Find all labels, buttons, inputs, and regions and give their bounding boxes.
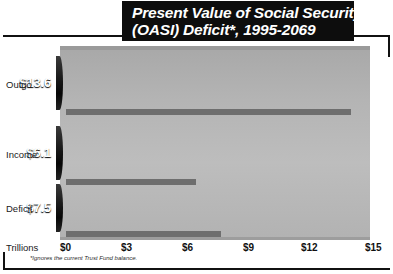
category-label-income: Income (6, 149, 37, 160)
chart-title-line-2: (OASI) Deficit*, 1995-2069 (132, 21, 346, 38)
xtick-0: $0 (60, 242, 71, 253)
title-bracket-tick (388, 35, 390, 57)
xtick-12: $12 (301, 242, 318, 253)
figure-bottom-rule (3, 268, 390, 270)
bar-shadow-deficit (66, 231, 221, 237)
category-label-outgo: Outgo (6, 79, 32, 90)
bar-shadow-outgo (66, 109, 351, 115)
bar-income-cap (56, 126, 63, 180)
chart-title-line-1: Present Value of Social Security (132, 4, 346, 21)
figure-corner-tick (3, 252, 5, 270)
bar-outgo-cap (56, 56, 63, 110)
xtick-15: $15 (365, 242, 382, 253)
plot-floor-base (60, 237, 370, 240)
axis-title-trillions: Trillions (6, 242, 38, 253)
xtick-3: $3 (121, 242, 132, 253)
chart-footnote: *Ignores the current Trust Fund balance. (30, 255, 137, 261)
xtick-6: $6 (182, 242, 193, 253)
plot-area: $13.6 $6.1 $7.5 (60, 46, 370, 240)
chart-title: Present Value of Social Security (OASI) … (122, 1, 354, 41)
xtick-9: $9 (243, 242, 254, 253)
bar-income[interactable]: $6.1 (60, 125, 190, 179)
bar-deficit-cap (56, 184, 63, 232)
category-label-deficit: Deficit (6, 203, 32, 214)
chart-figure: Present Value of Social Security (OASI) … (0, 0, 393, 274)
bar-deficit[interactable]: $7.5 (60, 183, 215, 231)
plot-floor-highlight (60, 46, 370, 50)
bar-outgo[interactable]: $13.6 (60, 55, 345, 109)
